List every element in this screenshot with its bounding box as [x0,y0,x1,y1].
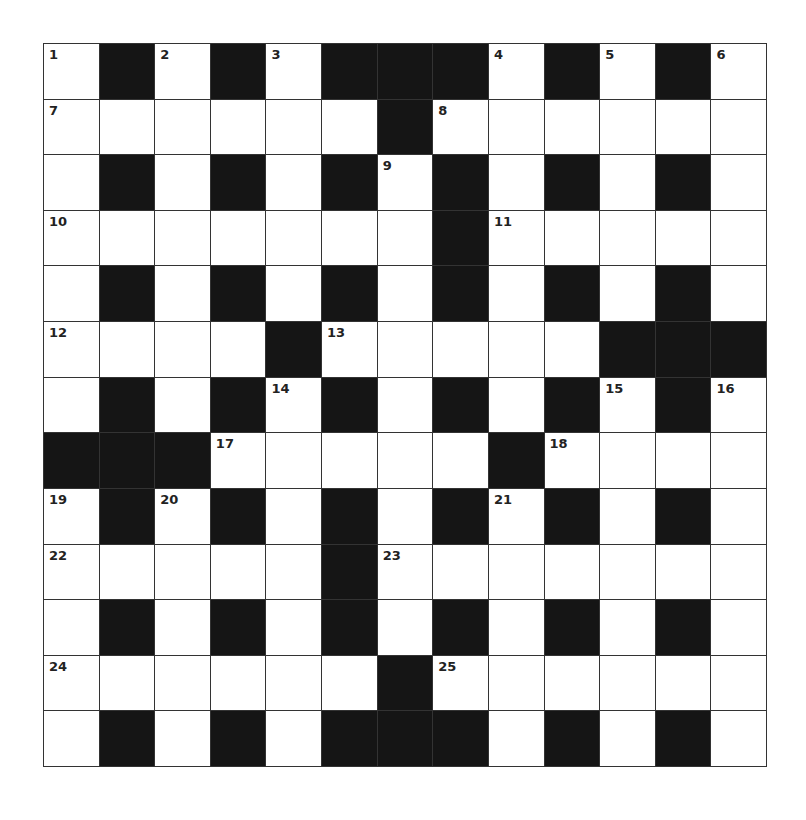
answer-cell[interactable] [322,656,377,711]
answer-cell[interactable] [266,211,321,266]
answer-cell[interactable]: 4 [489,44,544,99]
answer-cell[interactable]: 13 [322,322,377,377]
answer-cell[interactable] [656,211,711,266]
answer-cell[interactable] [711,433,766,488]
answer-cell[interactable] [322,211,377,266]
answer-cell[interactable] [44,600,99,655]
answer-cell[interactable] [100,322,155,377]
answer-cell[interactable]: 16 [711,378,766,433]
answer-cell[interactable] [378,322,433,377]
answer-cell[interactable]: 19 [44,489,99,544]
answer-cell[interactable]: 7 [44,100,99,155]
answer-cell[interactable] [266,489,321,544]
answer-cell[interactable] [378,600,433,655]
answer-cell[interactable] [545,322,600,377]
answer-cell[interactable] [489,378,544,433]
answer-cell[interactable] [155,266,210,321]
answer-cell[interactable] [600,433,655,488]
answer-cell[interactable] [378,489,433,544]
answer-cell[interactable]: 3 [266,44,321,99]
answer-cell[interactable] [711,656,766,711]
answer-cell[interactable] [656,433,711,488]
answer-cell[interactable] [155,322,210,377]
answer-cell[interactable] [155,600,210,655]
answer-cell[interactable]: 5 [600,44,655,99]
answer-cell[interactable] [378,378,433,433]
answer-cell[interactable] [656,545,711,600]
answer-cell[interactable] [322,433,377,488]
answer-cell[interactable] [211,322,266,377]
answer-cell[interactable] [600,266,655,321]
answer-cell[interactable] [711,211,766,266]
answer-cell[interactable]: 9 [378,155,433,210]
answer-cell[interactable]: 11 [489,211,544,266]
answer-cell[interactable] [100,211,155,266]
answer-cell[interactable] [100,656,155,711]
answer-cell[interactable] [489,656,544,711]
answer-cell[interactable] [433,322,488,377]
answer-cell[interactable] [489,266,544,321]
answer-cell[interactable] [44,378,99,433]
answer-cell[interactable]: 17 [211,433,266,488]
answer-cell[interactable]: 8 [433,100,488,155]
answer-cell[interactable]: 18 [545,433,600,488]
answer-cell[interactable] [489,100,544,155]
answer-cell[interactable] [711,545,766,600]
answer-cell[interactable] [100,545,155,600]
answer-cell[interactable] [44,711,99,766]
answer-cell[interactable] [378,433,433,488]
answer-cell[interactable] [211,100,266,155]
answer-cell[interactable] [211,211,266,266]
answer-cell[interactable] [656,656,711,711]
answer-cell[interactable] [266,656,321,711]
answer-cell[interactable] [545,656,600,711]
answer-cell[interactable] [266,100,321,155]
answer-cell[interactable] [211,545,266,600]
answer-cell[interactable] [155,378,210,433]
answer-cell[interactable] [656,100,711,155]
answer-cell[interactable]: 2 [155,44,210,99]
answer-cell[interactable] [600,600,655,655]
answer-cell[interactable] [711,155,766,210]
answer-cell[interactable] [711,489,766,544]
answer-cell[interactable] [489,155,544,210]
answer-cell[interactable] [600,489,655,544]
answer-cell[interactable] [711,266,766,321]
answer-cell[interactable] [378,266,433,321]
answer-cell[interactable] [711,711,766,766]
answer-cell[interactable] [600,656,655,711]
answer-cell[interactable] [44,155,99,210]
answer-cell[interactable] [489,322,544,377]
answer-cell[interactable]: 22 [44,545,99,600]
answer-cell[interactable] [600,545,655,600]
answer-cell[interactable]: 23 [378,545,433,600]
answer-cell[interactable]: 1 [44,44,99,99]
answer-cell[interactable] [600,711,655,766]
answer-cell[interactable] [155,545,210,600]
answer-cell[interactable] [155,711,210,766]
answer-cell[interactable]: 12 [44,322,99,377]
answer-cell[interactable]: 14 [266,378,321,433]
answer-cell[interactable] [155,155,210,210]
answer-cell[interactable]: 15 [600,378,655,433]
answer-cell[interactable] [266,433,321,488]
answer-cell[interactable] [266,155,321,210]
answer-cell[interactable] [155,656,210,711]
answer-cell[interactable] [322,100,377,155]
answer-cell[interactable]: 6 [711,44,766,99]
answer-cell[interactable] [545,545,600,600]
answer-cell[interactable] [266,711,321,766]
answer-cell[interactable] [600,155,655,210]
answer-cell[interactable] [489,711,544,766]
answer-cell[interactable]: 25 [433,656,488,711]
answer-cell[interactable] [545,100,600,155]
answer-cell[interactable] [155,100,210,155]
answer-cell[interactable] [266,266,321,321]
answer-cell[interactable] [489,600,544,655]
answer-cell[interactable] [100,100,155,155]
answer-cell[interactable] [266,545,321,600]
answer-cell[interactable] [711,100,766,155]
answer-cell[interactable] [545,211,600,266]
answer-cell[interactable] [489,545,544,600]
answer-cell[interactable] [266,600,321,655]
